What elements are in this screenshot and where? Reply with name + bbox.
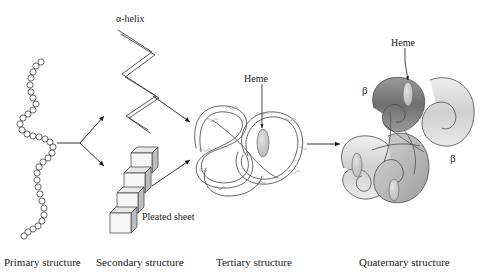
heme-group-tertiary [257,129,269,157]
arrow-group-primary-secondary [57,116,104,166]
stage-label-quaternary: Quaternary structure [359,257,450,268]
diagram-canvas [0,0,494,275]
heme-label-tertiary: Heme [244,74,268,84]
heme-group-quaternary [389,179,399,201]
alpha-helix-structure [118,30,159,133]
heme-group-quaternary [403,82,413,106]
stage-label-secondary: Secondary structure [96,257,184,268]
quaternary-structure [341,77,474,202]
quaternary-subunit [373,77,425,131]
stage-label-primary: Primary structure [4,257,81,268]
beta-label-lower-right: β [450,153,456,164]
primary-structure-chain [17,59,56,239]
arrow-primary-to-secondary-upper [80,116,104,143]
arrow-helix-to-tertiary [153,96,190,122]
beta-label-upper-left: β [362,85,368,96]
quaternary-subunit [422,78,474,146]
heme-leader-quaternary [405,48,408,80]
protein-structure-figure: α-helix Pleated sheet Heme Heme β β Prim… [0,0,494,275]
alpha-helix-label: α-helix [116,14,145,24]
tertiary-structure [195,106,307,196]
pleated-sheet-label: Pleated sheet [142,212,194,222]
arrow-primary-to-secondary-lower [80,143,104,166]
stage-label-tertiary: Tertiary structure [216,257,292,268]
heme-group-quaternary [352,153,362,177]
pleated-sheet-cube [110,207,137,233]
heme-label-quaternary: Heme [391,38,415,48]
